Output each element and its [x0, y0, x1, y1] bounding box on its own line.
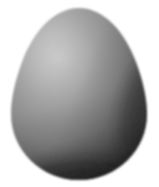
image-canvas: Egg Grayscale egg on plain white backgro… — [0, 0, 159, 187]
egg-illustration: Egg — [0, 0, 159, 187]
